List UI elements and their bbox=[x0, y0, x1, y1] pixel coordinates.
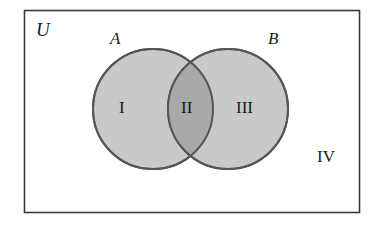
region-iv-label: IV bbox=[317, 148, 335, 165]
region-i-label: I bbox=[119, 99, 125, 116]
set-a-label: A bbox=[110, 30, 120, 47]
set-b-label: B bbox=[268, 30, 278, 47]
region-iii-label: III bbox=[236, 99, 253, 116]
venn-diagram-canvas: U A B I II III IV bbox=[0, 0, 381, 226]
universal-set-label: U bbox=[36, 20, 50, 39]
region-ii-label: II bbox=[181, 99, 192, 116]
